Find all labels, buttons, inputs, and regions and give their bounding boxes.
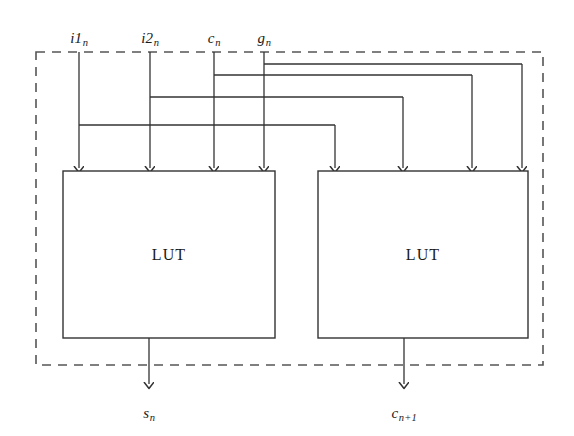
input-label-c: cn — [208, 30, 220, 47]
lut-label-lut-sum: LUT — [152, 246, 186, 264]
lut-adder-diagram: LUTLUTi1ni2ncngnsncn+1 — [0, 0, 574, 436]
schematic-canvas — [0, 0, 574, 436]
output-label-carry: cn+1 — [391, 405, 416, 422]
lut-label-lut-carry: LUT — [406, 246, 440, 264]
input-label-i2: i2n — [141, 30, 159, 47]
output-wires — [149, 338, 404, 384]
output-label-sum: sn — [143, 405, 155, 422]
input-label-g: gn — [257, 30, 270, 47]
input-label-i1: i1n — [70, 30, 88, 47]
signal-wires — [79, 52, 522, 168]
lut-boxes — [63, 171, 528, 338]
